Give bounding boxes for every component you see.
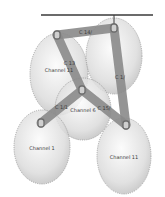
rod-label: C 13	[64, 60, 75, 66]
rod-label: C 1/	[115, 74, 125, 80]
channel-diagram: Channel 11Channel 6Channel 1Channel 11C …	[0, 0, 165, 197]
rod-label: C 15/	[97, 105, 110, 111]
top-bar	[41, 15, 153, 24]
channel-label: Channel 11	[45, 67, 73, 73]
channel-label: Channel 1	[29, 145, 54, 151]
connector-node	[54, 31, 60, 39]
connector-node	[123, 121, 129, 129]
rod-label: C 14/	[79, 29, 92, 35]
rod-label: C 1/1	[55, 104, 68, 110]
channel-bubbles	[14, 18, 151, 194]
channel-label: Channel 11	[110, 154, 138, 160]
connector-node	[111, 24, 117, 32]
connector-node	[79, 86, 85, 94]
channel-label: Channel 6	[70, 107, 95, 113]
connector-node	[38, 119, 44, 127]
